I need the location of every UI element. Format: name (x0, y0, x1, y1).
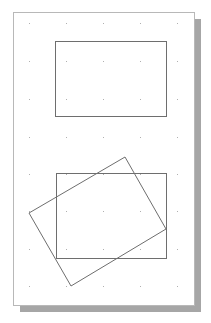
grid-dot (103, 137, 104, 138)
grid-dot (140, 137, 141, 138)
grid-dot (66, 137, 67, 138)
grid-dot (177, 23, 178, 24)
grid-dot (29, 61, 30, 62)
grid-dot (29, 211, 30, 212)
grid-dot (140, 99, 141, 100)
grid-dot (29, 99, 30, 100)
grid-dot (29, 137, 30, 138)
grid-dot (29, 23, 30, 24)
grid-dot (103, 99, 104, 100)
grid-dot (103, 23, 104, 24)
grid-dot (177, 211, 178, 212)
drawing-canvas[interactable] (0, 0, 211, 323)
grid-dot (103, 61, 104, 62)
grid-dot (177, 174, 178, 175)
grid-dot (29, 174, 30, 175)
grid-dot (103, 249, 104, 250)
grid-dot (66, 286, 67, 287)
grid-dot (177, 286, 178, 287)
grid-dot (177, 137, 178, 138)
grid-dot (66, 61, 67, 62)
grid-dot (140, 249, 141, 250)
page[interactable] (14, 13, 195, 306)
grid-dot (29, 249, 30, 250)
grid-dot (177, 99, 178, 100)
grid-dot (103, 286, 104, 287)
grid-dot (177, 61, 178, 62)
grid-dot (66, 249, 67, 250)
grid-dot (66, 99, 67, 100)
grid-dot (29, 286, 30, 287)
grid-dot (103, 211, 104, 212)
grid-dot (140, 286, 141, 287)
grid-dot (66, 174, 67, 175)
grid-dot (66, 23, 67, 24)
grid-dot (66, 211, 67, 212)
grid-dot (140, 61, 141, 62)
grid-dot (140, 23, 141, 24)
grid-dot (140, 174, 141, 175)
grid-dot (103, 174, 104, 175)
grid-dot (177, 249, 178, 250)
grid-dot (140, 211, 141, 212)
